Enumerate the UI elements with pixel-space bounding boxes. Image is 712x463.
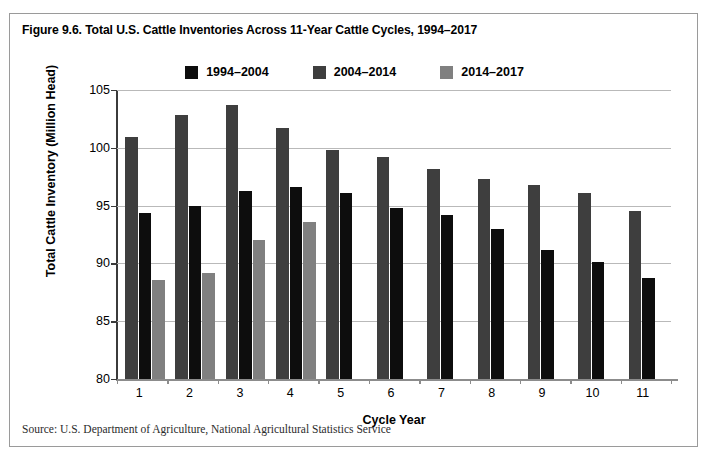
bar[interactable]: [290, 187, 303, 379]
y-tick-mark: [111, 148, 117, 149]
y-tick-mark: [111, 206, 117, 207]
bar[interactable]: [390, 208, 403, 379]
bar[interactable]: [592, 262, 605, 379]
bar[interactable]: [377, 157, 390, 379]
x-tick-label: 4: [287, 386, 294, 400]
x-tick-mark: [218, 379, 219, 384]
x-tick-mark: [117, 379, 118, 384]
x-tick-label: 11: [636, 386, 649, 400]
y-tick-label: 90: [96, 256, 110, 270]
bar[interactable]: [226, 105, 239, 379]
bar[interactable]: [175, 115, 188, 379]
y-tick-mark: [111, 90, 117, 91]
x-tick-label: 8: [488, 386, 495, 400]
y-tick-label: 105: [89, 83, 110, 97]
bar[interactable]: [253, 240, 266, 379]
x-axis-line: [116, 379, 678, 381]
y-tick-label: 100: [89, 141, 110, 155]
x-tick-mark: [268, 379, 269, 384]
bar[interactable]: [189, 206, 202, 379]
gridline: [117, 90, 671, 91]
x-tick-mark: [621, 379, 622, 384]
x-tick-mark: [318, 379, 319, 384]
bar[interactable]: [139, 213, 152, 379]
x-tick-label: 2: [186, 386, 193, 400]
gridline: [117, 148, 671, 149]
x-tick-label: 10: [586, 386, 600, 400]
bar[interactable]: [239, 191, 252, 379]
bar[interactable]: [578, 193, 591, 379]
x-tick-mark: [520, 379, 521, 384]
x-tick-label: 5: [337, 386, 344, 400]
bar[interactable]: [340, 193, 353, 379]
bar[interactable]: [427, 169, 440, 379]
x-tick-label: 3: [236, 386, 243, 400]
chart-plot-wrapper: Total Cattle Inventory (Million Head) 80…: [10, 14, 699, 448]
figure-card: Figure 9.6. Total U.S. Cattle Inventorie…: [9, 13, 698, 447]
bar[interactable]: [303, 222, 316, 379]
bar[interactable]: [441, 215, 454, 379]
plot-area: 80859095100105 1234567891011: [117, 90, 671, 379]
x-tick-label: 9: [539, 386, 546, 400]
y-tick-label: 85: [96, 314, 110, 328]
x-tick-label: 6: [388, 386, 395, 400]
x-tick-label: 7: [438, 386, 445, 400]
x-tick-mark: [570, 379, 571, 384]
x-tick-mark: [369, 379, 370, 384]
y-tick-mark: [111, 263, 117, 264]
x-tick-mark: [419, 379, 420, 384]
bar[interactable]: [125, 137, 138, 379]
bar[interactable]: [642, 278, 655, 379]
source-note: Source: U.S. Department of Agriculture, …: [22, 423, 391, 435]
x-tick-label: 1: [136, 386, 143, 400]
bar[interactable]: [491, 229, 504, 379]
y-tick-label: 80: [96, 372, 110, 386]
bar[interactable]: [541, 250, 554, 379]
bar[interactable]: [276, 128, 289, 379]
bar[interactable]: [152, 280, 165, 379]
x-tick-mark: [470, 379, 471, 384]
bar[interactable]: [326, 150, 339, 379]
bar[interactable]: [629, 211, 642, 379]
y-axis-title: Total Cattle Inventory (Million Head): [44, 46, 58, 296]
y-tick-mark: [111, 321, 117, 322]
bar[interactable]: [202, 273, 215, 379]
x-tick-mark: [167, 379, 168, 384]
bar[interactable]: [478, 179, 491, 379]
x-tick-mark: [671, 379, 672, 384]
y-axis-line: [116, 90, 118, 380]
y-tick-label: 95: [96, 199, 110, 213]
bar[interactable]: [528, 185, 541, 379]
